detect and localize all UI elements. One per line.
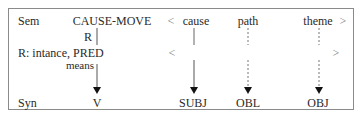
arrow-down-icon xyxy=(244,87,252,94)
arrow-down-icon xyxy=(190,87,198,94)
arrow-down-icon xyxy=(93,87,101,94)
link-lines xyxy=(0,0,363,121)
arrow-down-icon xyxy=(315,87,323,94)
